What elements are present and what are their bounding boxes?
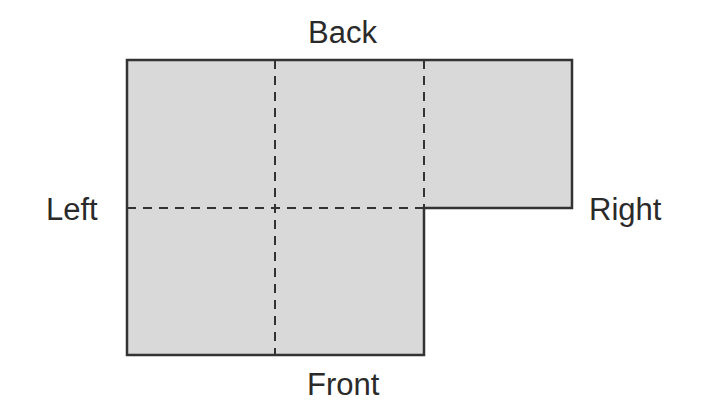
label-right: Right [589,194,661,225]
label-back: Back [308,17,377,48]
label-left: Left [46,194,98,225]
label-front: Front [307,369,379,400]
